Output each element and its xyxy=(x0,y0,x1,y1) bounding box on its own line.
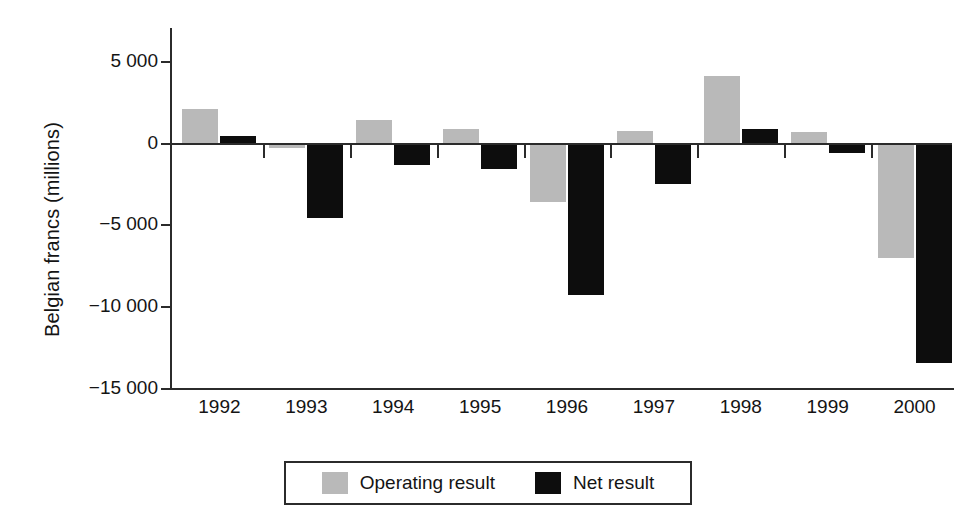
bar-1996-operating-result xyxy=(530,143,566,203)
bar-1992-net-result xyxy=(220,136,256,143)
category-separator xyxy=(263,143,265,158)
zero-baseline xyxy=(170,143,952,145)
y-tick-mark xyxy=(161,306,172,308)
y-tick-label: −15 000 xyxy=(89,377,158,399)
x-label-1996: 1996 xyxy=(546,396,588,418)
bar-chart: Belgian francs (millions) 5 0000−5 000−1… xyxy=(0,0,969,524)
bar-1997-net-result xyxy=(655,143,691,185)
plot-area: 5 0000−5 000−10 000−15 000 xyxy=(170,28,952,388)
y-tick-mark xyxy=(161,224,172,226)
y-axis-line xyxy=(170,28,172,388)
x-label-1992: 1992 xyxy=(198,396,240,418)
y-tick-label: 5 000 xyxy=(110,50,158,72)
legend-label-net-result: Net result xyxy=(573,472,654,494)
bar-1994-net-result xyxy=(394,143,430,165)
x-label-2000: 2000 xyxy=(893,396,935,418)
category-separator xyxy=(350,143,352,158)
bar-1995-operating-result xyxy=(443,129,479,143)
category-separator xyxy=(524,143,526,158)
x-label-1993: 1993 xyxy=(285,396,327,418)
bar-1992-operating-result xyxy=(182,109,218,143)
x-label-1997: 1997 xyxy=(633,396,675,418)
bar-1994-operating-result xyxy=(356,120,392,143)
bar-2000-operating-result xyxy=(878,143,914,258)
y-tick-mark xyxy=(161,61,172,63)
category-separator xyxy=(610,143,612,158)
category-separator xyxy=(697,143,699,158)
bar-1996-net-result xyxy=(568,143,604,295)
bar-1998-net-result xyxy=(742,129,778,142)
category-separator xyxy=(871,143,873,158)
category-separator xyxy=(784,143,786,158)
bar-1993-net-result xyxy=(307,143,343,218)
x-label-1995: 1995 xyxy=(459,396,501,418)
y-tick-label: −10 000 xyxy=(89,295,158,317)
bar-1995-net-result xyxy=(481,143,517,169)
x-axis-line xyxy=(170,388,954,390)
x-label-1994: 1994 xyxy=(372,396,414,418)
net-result-swatch xyxy=(535,472,561,494)
y-tick-label: −5 000 xyxy=(99,213,158,235)
x-label-1999: 1999 xyxy=(807,396,849,418)
legend-entry-net-result: Net result xyxy=(535,472,654,494)
bar-1997-operating-result xyxy=(617,131,653,142)
category-separator xyxy=(437,143,439,158)
legend-entry-operating-result: Operating result xyxy=(322,472,495,494)
x-label-1998: 1998 xyxy=(720,396,762,418)
y-tick-label: 0 xyxy=(147,132,158,154)
chart-legend: Operating result Net result xyxy=(284,461,692,505)
legend-label-operating-result: Operating result xyxy=(360,472,495,494)
bar-1999-operating-result xyxy=(791,132,827,143)
bar-2000-net-result xyxy=(916,143,952,364)
y-axis-title: Belgian francs (millions) xyxy=(41,70,64,390)
bar-1998-operating-result xyxy=(704,76,740,142)
x-axis-tick-labels: 199219931994199519961997199819992000 xyxy=(170,396,952,426)
operating-result-swatch xyxy=(322,472,348,494)
